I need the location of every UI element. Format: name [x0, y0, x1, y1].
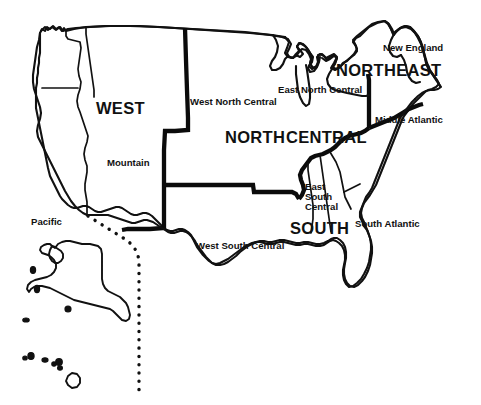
western-state-lines [86, 27, 94, 97]
us-census-regions-map: WEST NORTH CENTRAL NORTHEAST SOUTH Pacif… [0, 0, 481, 405]
region-label-central: CENTRAL [286, 129, 367, 146]
region-label-west: WEST [96, 100, 145, 117]
division-label-west-south-central: West South Central [196, 241, 284, 251]
region-label-north: NORTH [225, 129, 285, 146]
division-label-mountain: Mountain [107, 158, 150, 168]
west-north-central-region-divider [122, 28, 188, 230]
hawaii-islands [23, 353, 80, 388]
dotted-inset-divider [88, 216, 139, 392]
escl-line-3: Central [305, 202, 338, 212]
region-label-south: SOUTH [290, 220, 349, 237]
division-label-east-north-central: East North Central [278, 85, 362, 95]
west-south-region-divider [164, 185, 299, 199]
division-label-middle-atlantic: Middle Atlantic [375, 115, 443, 125]
region-label-northeast: NORTHEAST [336, 62, 441, 79]
division-label-pacific: Pacific [31, 217, 62, 227]
division-label-east-south-central: East South Central [305, 182, 338, 212]
division-label-new-england: New England [383, 43, 443, 53]
pacific-mountain-division-line [42, 31, 88, 214]
alaska-outline [23, 241, 130, 322]
northeast-north-central-divider [368, 74, 369, 128]
division-label-west-north-central: West North Central [190, 97, 277, 107]
division-label-south-atlantic: South Atlantic [355, 219, 420, 229]
